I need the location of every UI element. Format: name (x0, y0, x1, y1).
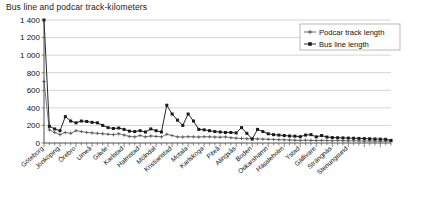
data-point-marker (277, 138, 280, 141)
data-point-marker (240, 126, 243, 129)
data-point-marker (288, 138, 291, 141)
data-point-marker (336, 136, 339, 139)
data-point-marker (347, 137, 350, 140)
data-point-marker (155, 129, 158, 132)
data-point-marker (293, 138, 296, 141)
data-point-marker (192, 135, 195, 138)
data-point-marker (203, 128, 206, 131)
data-point-marker (304, 138, 307, 141)
data-point-marker (213, 135, 216, 138)
data-point-marker (390, 139, 393, 142)
x-tick-label: Örebro (57, 144, 77, 163)
data-point-marker (101, 124, 104, 127)
data-point-marker (277, 134, 280, 137)
legend-entry-label: Bus line length (319, 40, 369, 49)
data-point-marker (293, 135, 296, 138)
data-point-marker (176, 119, 179, 122)
data-point-marker (325, 139, 328, 142)
data-point-marker (368, 137, 371, 140)
data-point-marker (117, 127, 120, 130)
y-tick-label: 1 000 (20, 51, 41, 60)
x-axis-labels: GöteborgJönköpingÖrebroUmeåGävleKarlstad… (20, 144, 350, 176)
y-tick-label: 600 (27, 86, 41, 95)
data-point-marker (245, 137, 248, 140)
data-point-marker (229, 131, 232, 134)
data-point-marker (309, 133, 312, 136)
data-point-marker (176, 135, 179, 138)
data-point-marker (96, 132, 99, 135)
data-point-marker (251, 138, 254, 141)
data-point-marker (261, 130, 264, 133)
data-point-marker (85, 131, 88, 134)
data-point-marker (267, 138, 270, 141)
data-point-marker (154, 135, 157, 138)
data-point-marker (357, 137, 360, 140)
data-point-marker (53, 131, 56, 134)
data-point-marker (213, 130, 216, 133)
data-point-marker (144, 131, 147, 134)
data-point-marker (331, 136, 334, 139)
x-tick-label: Umeå (75, 144, 93, 161)
data-point-marker (138, 134, 141, 137)
data-point-marker (331, 139, 334, 142)
data-point-marker (101, 132, 104, 135)
data-point-marker (320, 139, 323, 142)
data-point-marker (144, 135, 147, 138)
data-point-marker (80, 130, 83, 133)
data-point-marker (272, 133, 275, 136)
data-point-marker (187, 113, 190, 116)
y-tick-label: 200 (27, 121, 41, 130)
data-point-marker (112, 133, 115, 136)
data-point-marker (139, 129, 142, 132)
data-point-marker (267, 132, 270, 135)
data-point-marker (283, 138, 286, 141)
data-point-marker (58, 133, 61, 136)
data-point-marker (245, 132, 248, 135)
data-point-marker (325, 136, 328, 139)
data-point-marker (90, 131, 93, 134)
data-point-marker (85, 120, 88, 123)
data-point-marker (165, 104, 168, 107)
data-point-marker (299, 139, 302, 142)
data-point-marker (74, 129, 77, 132)
data-point-marker (75, 121, 78, 124)
data-point-marker (234, 136, 237, 139)
data-point-marker (123, 128, 126, 131)
data-point-marker (384, 138, 387, 141)
data-point-marker (347, 139, 350, 142)
data-point-marker (235, 131, 238, 134)
data-point-marker (181, 135, 184, 138)
data-point-marker (256, 137, 259, 140)
data-point-marker (186, 135, 189, 138)
data-point-marker (112, 127, 115, 130)
y-tick-label: 1 400 (20, 16, 41, 25)
data-point-marker (91, 121, 94, 124)
data-point-marker (224, 131, 227, 134)
data-point-marker (224, 135, 227, 138)
data-point-marker (341, 139, 344, 142)
data-point-marker (229, 136, 232, 139)
data-point-marker (106, 133, 109, 136)
data-point-marker (80, 120, 83, 123)
data-point-marker (320, 134, 323, 137)
data-point-marker (208, 135, 211, 138)
y-tick-label: 400 (27, 104, 41, 113)
y-tick-label: 800 (27, 69, 41, 78)
data-point-marker (170, 134, 173, 137)
data-point-marker (117, 132, 120, 135)
data-point-marker (197, 135, 200, 138)
legend-entry-label: Podcar track length (319, 28, 384, 37)
data-point-marker (128, 130, 131, 133)
data-point-marker (160, 131, 163, 134)
data-point-marker (149, 127, 152, 130)
data-point-marker (208, 129, 211, 132)
data-point-marker (315, 135, 318, 138)
data-point-marker (219, 131, 222, 134)
data-point-marker (64, 131, 67, 134)
data-point-marker (288, 134, 291, 137)
data-point-marker (64, 115, 67, 118)
data-point-marker (363, 137, 366, 140)
data-point-marker (202, 135, 205, 138)
chart-container: Bus line and podcar track-kilometers 1 4… (0, 0, 436, 200)
chart-plot-area: 1 4001 2001 0008006004002000 GöteborgJön… (0, 0, 436, 200)
